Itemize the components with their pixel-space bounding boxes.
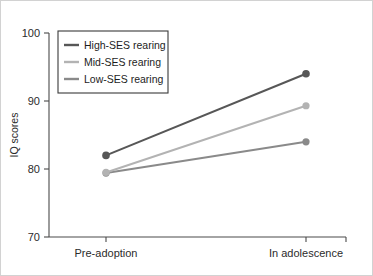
series-point-high-ses-pre-adoption <box>102 152 110 160</box>
legend-label-high-ses: High-SES rearing <box>84 39 166 51</box>
series-point-mid-ses-in-adolescence <box>302 102 309 109</box>
series-line-mid-ses <box>106 106 306 173</box>
y-tick-label-80: 80 <box>28 163 40 175</box>
x-category-label-in-adolescence: In adolescence <box>269 247 343 259</box>
legend: High-SES rearing Mid-SES rearing Low-SES… <box>58 31 168 93</box>
legend-label-mid-ses: Mid-SES rearing <box>84 56 161 68</box>
series-point-mid-ses-pre-adoption <box>102 169 109 176</box>
y-axis-title: IQ scores <box>8 113 20 158</box>
x-category-label-pre-adoption: Pre-adoption <box>75 247 138 259</box>
line-chart: 100 90 80 70 IQ scores Pre-adoption In a… <box>1 1 373 276</box>
legend-label-low-ses: Low-SES rearing <box>84 73 164 85</box>
chart-figure: 100 90 80 70 IQ scores Pre-adoption In a… <box>0 0 373 276</box>
series-point-low-ses-in-adolescence <box>302 138 309 145</box>
y-tick-label-100: 100 <box>22 27 40 39</box>
y-tick-label-90: 90 <box>28 95 40 107</box>
series-point-high-ses-in-adolescence <box>302 70 310 78</box>
series-line-low-ses <box>106 142 306 173</box>
y-tick-label-70: 70 <box>28 231 40 243</box>
